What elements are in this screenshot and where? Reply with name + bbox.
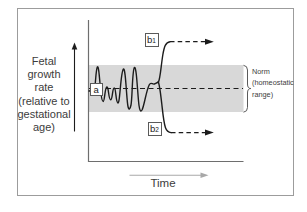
y-axis-label-line: rate xyxy=(14,81,74,94)
norm-range-brace xyxy=(244,65,251,112)
y-axis-label: Fetal growth rate (relative to gestation… xyxy=(14,55,74,134)
branch-b2-dashed-arrow xyxy=(171,130,214,136)
y-axis-label-line: (relative to xyxy=(14,95,74,108)
node-b2-subscript: 2 xyxy=(155,127,159,134)
x-axis-label: Time xyxy=(141,177,185,189)
y-axis-label-line: Fetal xyxy=(14,55,74,68)
y-axis-label-line: age) xyxy=(14,121,74,134)
node-b2-box: b2 xyxy=(148,122,162,136)
norm-annotation: Norm (homeostatic range) xyxy=(252,66,300,100)
node-a-label: a xyxy=(94,84,99,95)
norm-annotation-line: range) xyxy=(252,89,300,100)
right-arrowhead-icon xyxy=(205,39,214,45)
right-arrowhead-icon xyxy=(205,130,214,136)
figure-page: Fetal growth rate (relative to gestation… xyxy=(0,0,307,212)
y-axis-label-line: gestational xyxy=(14,108,74,121)
norm-annotation-line: Norm xyxy=(252,66,300,77)
node-b1-box: b1 xyxy=(145,33,159,47)
node-a-box: a xyxy=(90,83,104,97)
y-axis-label-line: growth xyxy=(14,68,74,81)
norm-annotation-line: (homeostatic xyxy=(252,77,300,88)
branch-b1-dashed-arrow xyxy=(170,39,214,45)
node-b1-subscript: 1 xyxy=(152,38,156,45)
